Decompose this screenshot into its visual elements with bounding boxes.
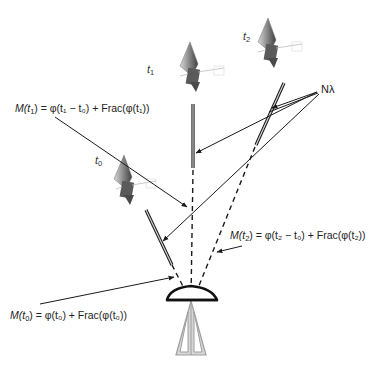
eq-rhs: ) = φ(t₀) + Frac(φ(t₀)) — [29, 309, 127, 321]
satellite-label-t0: t0 — [95, 155, 102, 168]
ambiguity-arrows — [163, 92, 319, 241]
eq-lhs: M( — [230, 229, 242, 241]
label-sub: 0 — [98, 159, 102, 168]
eq-rhs: ) = φ(t₁ − t₀) + Frac(φ(t₁)) — [34, 102, 149, 114]
satellite-t1-icon — [180, 42, 224, 92]
eq-lhs: M( — [10, 309, 22, 321]
ambiguity-label: Nλ — [321, 84, 334, 95]
dashed-line-t2 — [194, 147, 255, 298]
equation-m-t1: M(t1) = φ(t₁ − t₀) + Frac(φ(t₁)) — [15, 103, 150, 116]
satellite-label-t1: t1 — [147, 64, 154, 77]
satellite-t0-icon — [114, 155, 156, 205]
equation-m-t2: M(t2) = φ(t₂ − t₀) + Frac(φ(t₂)) — [230, 230, 366, 243]
eq-rhs: ) = φ(t₂ − t₀) + Frac(φ(t₂)) — [249, 229, 365, 241]
label-sub: 2 — [246, 35, 250, 44]
label-sub: 1 — [150, 68, 154, 77]
satellite-t2-icon — [258, 18, 302, 68]
dashed-range-lines — [172, 147, 255, 298]
range-bar-t0 — [146, 210, 172, 265]
eq-lhs: M( — [15, 102, 27, 114]
satellite-label-t2: t2 — [243, 31, 250, 44]
range-bar-t2 — [256, 83, 284, 145]
antenna-icon — [166, 286, 218, 355]
arrow-m-t2 — [217, 246, 242, 252]
equation-m-t0: M(t0) = φ(t₀) + Frac(φ(t₀)) — [10, 310, 127, 323]
dashed-line-t1 — [191, 170, 193, 298]
arrow-m-t0 — [40, 277, 174, 304]
